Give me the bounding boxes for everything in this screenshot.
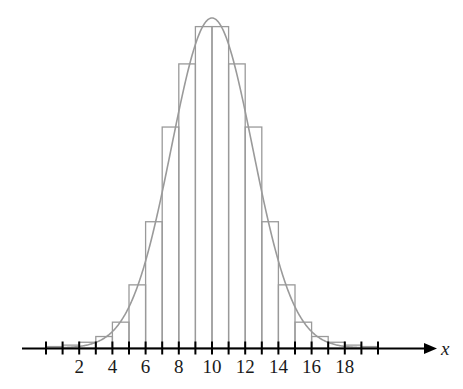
histogram-bar bbox=[295, 322, 312, 348]
x-axis-tick-labels: 24681012141618 bbox=[74, 356, 354, 377]
x-axis-tick-label: 6 bbox=[141, 356, 151, 377]
x-axis-tick-label: 2 bbox=[74, 356, 84, 377]
histogram-bar bbox=[129, 285, 146, 348]
x-axis-tick-label: 8 bbox=[174, 356, 184, 377]
histogram-normal-curve-chart: 24681012141618 x bbox=[0, 0, 463, 389]
x-axis-tick-label: 12 bbox=[236, 356, 255, 377]
histogram-bar bbox=[179, 64, 196, 348]
x-axis-label: x bbox=[440, 338, 450, 359]
histogram-bar bbox=[146, 222, 163, 348]
histogram-bar bbox=[212, 27, 229, 348]
x-axis-tick-label: 10 bbox=[203, 356, 222, 377]
x-axis-tick-label: 4 bbox=[108, 356, 118, 377]
x-axis-arrow-icon bbox=[424, 343, 437, 354]
histogram-bars bbox=[46, 27, 378, 348]
histogram-bar bbox=[112, 322, 129, 348]
x-axis-tick-label: 14 bbox=[269, 356, 289, 377]
histogram-bar bbox=[245, 127, 262, 348]
x-axis-tick-label: 16 bbox=[302, 356, 321, 377]
histogram-bar bbox=[278, 285, 295, 348]
histogram-bar bbox=[262, 222, 279, 348]
histogram-bar bbox=[195, 27, 212, 348]
x-axis-tick-label: 18 bbox=[335, 356, 354, 377]
x-axis-ticks bbox=[46, 342, 378, 355]
histogram-bar bbox=[229, 64, 246, 348]
figure-container: 24681012141618 x bbox=[0, 0, 463, 389]
histogram-bar bbox=[162, 127, 179, 348]
